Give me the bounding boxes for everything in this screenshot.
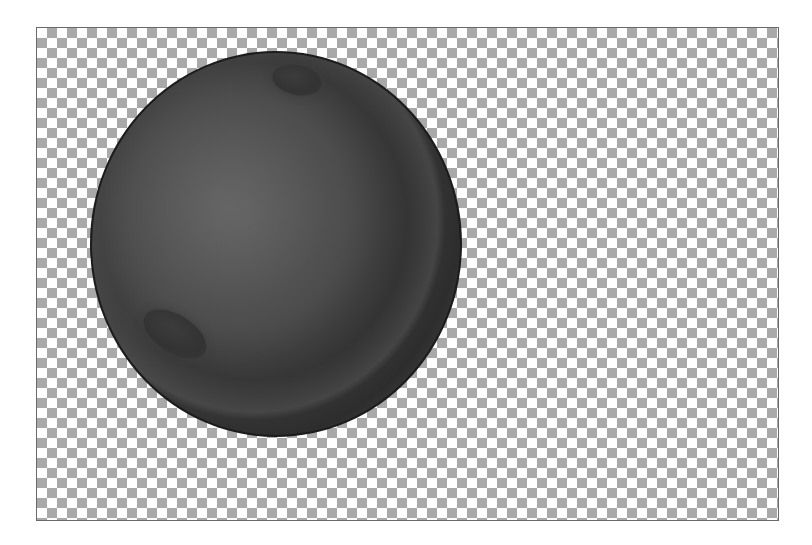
sphere-shape[interactable] — [90, 51, 462, 437]
image-canvas[interactable] — [36, 27, 779, 521]
sphere-rim-light — [92, 53, 460, 435]
